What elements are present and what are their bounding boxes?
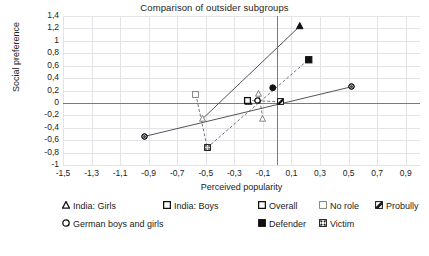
data-point-india-boys-victim bbox=[204, 144, 211, 151]
legend-label: German boys and girls bbox=[73, 219, 164, 229]
y-tick-label: -0,6 bbox=[29, 134, 59, 144]
square-outline-icon bbox=[258, 201, 266, 211]
legend-item-defender[interactable]: Defender bbox=[258, 218, 306, 229]
x-axis-label: Perceived popularity bbox=[63, 182, 420, 192]
y-tick-label: 0,6 bbox=[29, 60, 59, 70]
square-crosshatch-icon bbox=[319, 219, 327, 229]
legend-item-victim[interactable]: Victim bbox=[319, 218, 354, 229]
data-point-german-boys-and-girls-overall bbox=[254, 97, 261, 104]
y-tick-label: -0,8 bbox=[29, 147, 59, 157]
square-hatched-icon bbox=[375, 201, 383, 211]
legend-item-german-boys-and-girls[interactable]: German boys and girls bbox=[62, 218, 164, 229]
data-point-india-boys-no-role bbox=[192, 91, 199, 98]
legend-label: No role bbox=[330, 201, 359, 211]
data-point-german-boys-and-girls-probully bbox=[141, 133, 148, 140]
legend-label: Victim bbox=[330, 219, 354, 229]
x-tick-label: 0,9 bbox=[389, 168, 423, 178]
y-tick-label: -1 bbox=[29, 159, 59, 169]
y-tick-label: -0,4 bbox=[29, 122, 59, 132]
triangle-outline-icon bbox=[62, 201, 70, 211]
y-tick-label: 1 bbox=[29, 35, 59, 45]
y-tick-label: 0,2 bbox=[29, 85, 59, 95]
y-tick-label: 0,4 bbox=[29, 72, 59, 82]
y-tick-label: -0,2 bbox=[29, 109, 59, 119]
legend-label: India: Boys bbox=[174, 201, 219, 211]
connector-line bbox=[144, 87, 351, 137]
y-tick-label: 0 bbox=[29, 97, 59, 107]
y-tick-label: 0,8 bbox=[29, 47, 59, 57]
chart-title: Comparison of outsider subgroups bbox=[0, 2, 429, 13]
data-point-india-girls-defender bbox=[296, 22, 304, 30]
data-point-india-boys-overall bbox=[244, 97, 251, 104]
legend-label: Overall bbox=[269, 201, 298, 211]
legend-item-india-girls[interactable]: India: Girls bbox=[62, 200, 116, 211]
data-point-india-boys-probully bbox=[277, 98, 284, 105]
y-tick-label: 1,4 bbox=[29, 10, 59, 20]
connector-lines bbox=[63, 16, 420, 165]
legend-label: India: Girls bbox=[73, 201, 116, 211]
square-solid-icon bbox=[258, 219, 266, 229]
y-tick-label: 1,2 bbox=[29, 22, 59, 32]
data-point-india-girls-probully bbox=[259, 115, 266, 122]
legend-item-probully[interactable]: Probully bbox=[375, 200, 419, 211]
data-point-german-boys-and-girls-defender bbox=[269, 84, 277, 92]
data-point-india-girls-victim bbox=[199, 115, 206, 122]
chart-legend: India: Girls India: Boys German boys and… bbox=[0, 196, 429, 252]
circle-outline-icon bbox=[62, 219, 70, 229]
legend-item-india-boys[interactable]: India: Boys bbox=[163, 200, 219, 211]
connector-line bbox=[203, 26, 300, 119]
chart-root: Comparison of outsider subgroups Social … bbox=[0, 0, 429, 256]
connector-line bbox=[247, 100, 280, 101]
data-point-india-boys-defender bbox=[305, 56, 313, 64]
plot-area: -1,5-1,3-1,1-0,9-0,7-0,5-0,3-0,10,10,30,… bbox=[63, 16, 420, 165]
legend-label: Probully bbox=[386, 201, 419, 211]
legend-label: Defender bbox=[269, 219, 306, 229]
gridline-horizontal bbox=[63, 165, 420, 166]
y-axis-label: Social preference bbox=[11, 2, 21, 112]
square-light-icon bbox=[319, 201, 327, 211]
legend-item-no-role[interactable]: No role bbox=[319, 200, 359, 211]
square-outline-icon bbox=[163, 201, 171, 211]
legend-item-overall[interactable]: Overall bbox=[258, 200, 298, 211]
data-point-german-boys-and-girls-victim bbox=[348, 83, 355, 90]
